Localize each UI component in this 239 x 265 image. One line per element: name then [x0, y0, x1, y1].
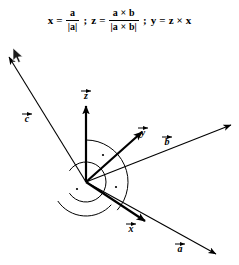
- formula-x-fraction: a |a|: [66, 8, 80, 32]
- formula-bar: x = a |a| ; z = a × b |a × b| ; y = z × …: [0, 0, 239, 40]
- formula-z-variable: z: [90, 14, 97, 26]
- frame-definition-formula: x = a |a| ; z = a × b |a × b| ; y = z × …: [47, 8, 193, 32]
- vector-c: [9, 57, 86, 182]
- formula-z-denominator: |a × b|: [109, 20, 139, 33]
- angle-z-x-dot: [76, 188, 78, 190]
- vector-diagram-canvas: czybxa: [0, 40, 239, 265]
- angle-y-x: [58, 201, 111, 216]
- formula-separator-1: ;: [80, 14, 90, 26]
- formula-z-fraction: a × b |a × b|: [109, 8, 139, 32]
- label-z: z: [83, 90, 88, 101]
- vector-diagram: czybxa: [0, 40, 239, 265]
- label-x: x: [128, 223, 134, 234]
- label-c: c: [25, 113, 30, 124]
- label-b: b: [165, 136, 170, 147]
- formula-x-variable: x: [47, 14, 55, 26]
- formula-z-equals: =: [97, 14, 107, 26]
- formula-x-numerator: a: [68, 8, 77, 20]
- vector-arrows: [9, 57, 231, 254]
- formula-x-denominator: |a|: [66, 20, 80, 33]
- angle-z-y-dot: [102, 154, 104, 156]
- formula-separator-2: ;: [140, 14, 150, 26]
- formula-z-numerator: a × b: [111, 8, 137, 20]
- angle-y-x-dot: [115, 186, 117, 188]
- vector-a: [86, 182, 216, 254]
- formula-y-expression: z × x: [168, 14, 193, 26]
- label-a: a: [178, 243, 183, 254]
- formula-y-variable: y: [150, 14, 158, 26]
- formula-x-equals: =: [54, 14, 64, 26]
- vector-b: [86, 125, 231, 182]
- right-angle-markers: [58, 140, 128, 216]
- formula-y-equals: =: [157, 14, 167, 26]
- label-y: y: [140, 127, 146, 138]
- vector-y: [86, 132, 142, 182]
